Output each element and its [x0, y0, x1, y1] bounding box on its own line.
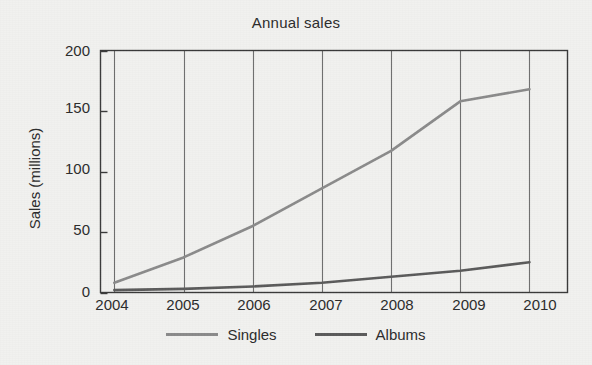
- series-line-albums: [114, 262, 529, 290]
- vertical-gridlines: [115, 51, 530, 293]
- chart-legend: Singles Albums: [0, 326, 592, 343]
- legend-label-albums: Albums: [376, 326, 426, 343]
- series-line-singles: [114, 89, 529, 283]
- y-axis-tick-marks: [101, 52, 108, 294]
- legend-label-singles: Singles: [227, 326, 276, 343]
- plot-area: [0, 0, 592, 365]
- legend-swatch-singles-icon: [166, 333, 218, 336]
- legend-entry-singles: Singles: [166, 326, 276, 343]
- legend-swatch-albums-icon: [315, 333, 367, 336]
- chart-figure: Annual sales Sales (millions) 200 150 10…: [0, 0, 592, 365]
- axes-frame: [101, 51, 568, 293]
- legend-entry-albums: Albums: [315, 326, 426, 343]
